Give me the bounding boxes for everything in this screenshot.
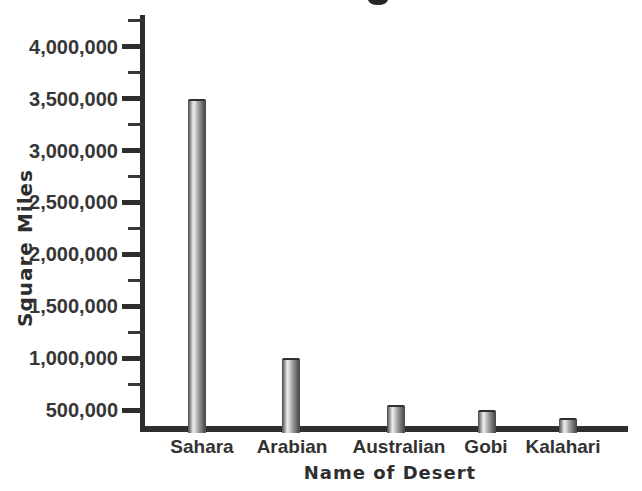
bar-arabian [282,358,300,433]
y-tick-label-3000000: 3,000,000 [8,140,118,162]
y-tick-label-3500000: 3,500,000 [8,88,118,110]
y-major-tick-2500000 [122,200,143,205]
y-tick-label-1500000: 1,500,000 [8,295,118,317]
bar-gobi [478,410,496,433]
cropped-title-glyph [368,0,388,5]
y-major-tick-1500000 [122,304,143,309]
x-tick-label-australian: Australian [353,436,446,458]
y-tick-label-500000: 500,000 [8,399,118,421]
y-tick-label-4000000: 4,000,000 [8,36,118,58]
desert-bar-chart: Square Miles 500,0001,000,0001,500,0002,… [0,0,642,491]
y-minor-tick-3250000 [128,123,143,126]
y-major-tick-500000 [122,408,143,413]
x-tick-label-sahara: Sahara [170,436,233,458]
x-tick-label-gobi: Gobi [464,436,507,458]
y-axis-line [140,15,145,432]
bar-sahara [188,99,206,433]
x-axis-line [140,426,628,432]
y-minor-tick-1750000 [128,279,143,282]
y-minor-tick-4250000 [128,19,143,22]
bar-kalahari [559,418,577,433]
y-major-tick-1000000 [122,356,143,361]
y-tick-label-1000000: 1,000,000 [8,347,118,369]
y-minor-tick-1250000 [128,331,143,334]
y-major-tick-2000000 [122,252,143,257]
y-minor-tick-750000 [128,383,143,386]
y-major-tick-4000000 [122,44,143,49]
y-major-tick-3500000 [122,96,143,101]
x-tick-label-arabian: Arabian [257,436,328,458]
y-minor-tick-2750000 [128,175,143,178]
bar-australian [387,405,405,433]
y-tick-label-2000000: 2,000,000 [8,243,118,265]
x-tick-label-kalahari: Kalahari [526,436,601,458]
y-tick-label-2500000: 2,500,000 [8,191,118,213]
y-minor-tick-3750000 [128,71,143,74]
y-minor-tick-2250000 [128,227,143,230]
y-major-tick-3000000 [122,148,143,153]
x-axis-title: Name of Desert [270,462,510,483]
